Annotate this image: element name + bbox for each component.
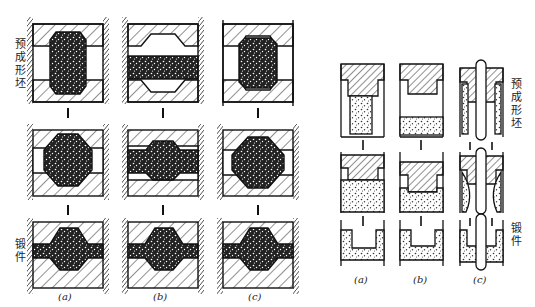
forging-diagram <box>0 0 535 307</box>
right-caption-c: (c) <box>473 274 486 285</box>
right-caption-a: (a) <box>354 274 368 285</box>
left-preform-label: 预成形坯 <box>13 38 25 90</box>
left-diagram <box>27 17 299 294</box>
left-caption-b: (b) <box>153 291 167 302</box>
left-caption-a: (a) <box>58 291 72 302</box>
left-caption-c: (c) <box>248 291 261 302</box>
right-forging-label: 锻件 <box>509 222 521 248</box>
right-diagram <box>341 60 503 270</box>
right-caption-b: (b) <box>413 274 427 285</box>
right-preform-label: 预成形坯 <box>509 78 521 130</box>
left-forging-label: 锻件 <box>13 238 25 264</box>
